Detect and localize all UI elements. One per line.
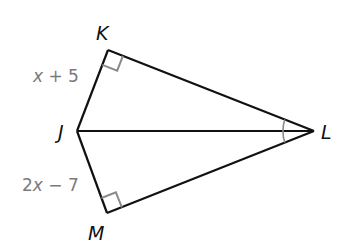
segment-kl: [108, 50, 314, 131]
segment-jm: [77, 131, 107, 213]
side-label-jk: x + 5: [32, 66, 79, 86]
segment-ml: [107, 131, 314, 213]
geometry-diagram: K J L M x + 5 2x − 7: [0, 0, 346, 251]
vertex-label-j: J: [54, 121, 64, 143]
angle-arc-jlm: [283, 131, 285, 143]
vertex-label-l: L: [321, 121, 332, 143]
side-label-jk-rest: + 5: [43, 66, 79, 86]
side-label-jm-rest: − 7: [43, 175, 79, 195]
vertex-label-k: K: [96, 22, 110, 44]
segment-jk: [77, 50, 108, 131]
angle-arc-klj: [283, 120, 285, 132]
vertex-label-m: M: [88, 222, 104, 244]
side-label-jm: 2x − 7: [22, 175, 79, 195]
side-label-jm-coef: 2: [22, 175, 33, 195]
